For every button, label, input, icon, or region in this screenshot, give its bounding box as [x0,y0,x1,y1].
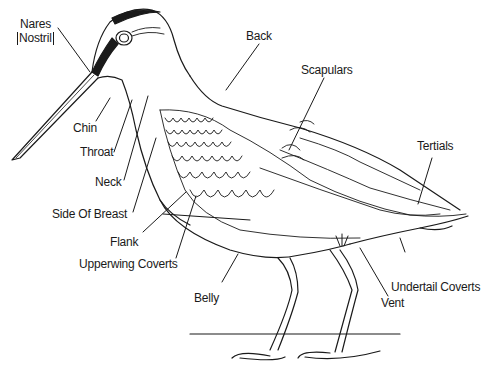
belly [160,200,350,258]
leader-lines [58,28,432,296]
wing [160,110,466,239]
label-throat: Throat [80,146,113,159]
label-neck: Neck [95,176,122,189]
label-nares: Nares [20,18,51,31]
label-scapulars: Scapulars [301,64,353,77]
label-flank: Flank [110,236,138,249]
label-side-of-breast: Side Of Breast [52,208,127,221]
label-vent: Vent [381,297,404,310]
label-undertail-coverts: Undertail Coverts [391,281,480,294]
label-chin: Chin [73,122,97,135]
label-nostril: Nostril [17,32,54,45]
label-tertials: Tertials [417,140,453,153]
label-back: Back [246,30,272,43]
bird-illustration [0,0,489,371]
eye [116,31,132,45]
label-upperwing-coverts: Upperwing Coverts [79,258,178,271]
head [92,9,190,76]
label-belly: Belly [194,292,219,305]
bird-anatomy-diagram: Nares Nostril Chin Throat Neck Side Of B… [0,0,489,371]
